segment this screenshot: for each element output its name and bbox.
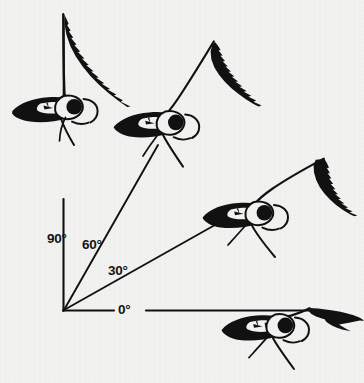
bird-30-eye bbox=[257, 205, 273, 221]
angle-label-0: 0° bbox=[118, 303, 131, 317]
bird-90-degrees bbox=[12, 15, 131, 145]
ray-60-degrees bbox=[64, 145, 158, 310]
bird-60-far-wing bbox=[211, 42, 262, 107]
angle-label-30: 30° bbox=[108, 264, 128, 278]
bird-90-nape-line bbox=[84, 99, 98, 122]
angle-reference-rays bbox=[63, 14, 310, 311]
bird-60-degrees bbox=[114, 42, 262, 167]
bird-0-eye bbox=[278, 318, 294, 334]
bird-30-far-wing bbox=[314, 159, 358, 216]
bird-0-nape-line bbox=[295, 318, 309, 341]
bird-wing-angle-figure bbox=[0, 0, 364, 383]
bird-0-throat-line bbox=[283, 340, 300, 342]
bird-60-nape-line bbox=[185, 115, 199, 138]
bird-0-far-wing bbox=[309, 308, 364, 331]
bird-30-near-wing bbox=[255, 159, 324, 204]
bird-90-far-wing bbox=[65, 15, 131, 107]
angle-label-60: 60° bbox=[82, 238, 102, 252]
bird-30-nape-line bbox=[274, 205, 288, 228]
bird-60-throat-line bbox=[174, 137, 191, 139]
bird-30-degrees bbox=[203, 159, 358, 257]
bird-90-eye bbox=[66, 99, 82, 115]
bird-0-degrees bbox=[222, 308, 364, 369]
angle-label-90: 90° bbox=[47, 232, 67, 246]
ray-30-degrees bbox=[64, 212, 238, 310]
bird-60-near-wing bbox=[167, 42, 214, 114]
bird-60-lower-streak bbox=[143, 135, 158, 157]
bird-60-eye bbox=[168, 115, 184, 131]
bird-90-throat-line bbox=[72, 122, 89, 124]
bird-30-throat-line bbox=[262, 228, 279, 230]
